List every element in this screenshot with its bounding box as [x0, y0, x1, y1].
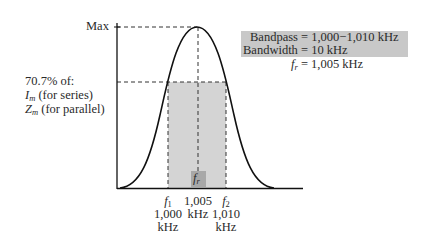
fr-box-sub: r: [196, 176, 199, 186]
zm-symbol: Z: [25, 102, 32, 116]
max-label: Max: [86, 20, 109, 34]
f1-unit-label: kHz: [150, 221, 186, 235]
series-text: (for series): [35, 88, 93, 102]
f2-unit-label: kHz: [208, 221, 244, 235]
fr-info-label: fr = 1,005 kHz: [291, 58, 363, 75]
fr-info-value: = 1,005 kHz: [298, 57, 363, 71]
threshold-heading: 70.7% of:: [25, 75, 74, 89]
bandwidth-label: Bandwidth = 10 kHz: [243, 44, 348, 58]
fr-box-label: fr: [193, 172, 200, 189]
parallel-text: (for parallel): [38, 102, 105, 116]
threshold-parallel-label: Zm (for parallel): [25, 103, 105, 120]
